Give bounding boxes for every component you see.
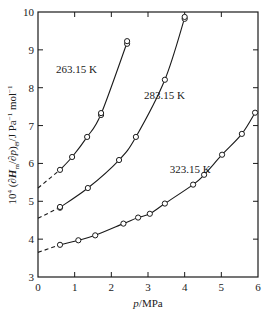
data-point: [162, 77, 167, 82]
y-tick-label: 6: [29, 157, 35, 169]
series-263-15-K: [38, 39, 130, 188]
x-tick-label: 2: [109, 281, 115, 293]
x-tick-label: 0: [35, 281, 41, 293]
chart-svg: 0123456345678910 263.15 K283.15 K323.15 …: [0, 0, 269, 315]
x-tick-label: 3: [145, 281, 151, 293]
data-point: [147, 211, 152, 216]
fit-curve: [60, 113, 255, 245]
data-point: [70, 154, 75, 159]
x-tick-label: 4: [182, 281, 188, 293]
x-axis-label: p/MPa: [132, 297, 162, 309]
data-point: [93, 233, 98, 238]
data-point: [76, 238, 81, 243]
y-tick-label: 3: [29, 271, 35, 283]
extrapolation-line: [38, 245, 60, 253]
y-tick-label: 8: [29, 82, 35, 94]
chart-container: 0123456345678910 263.15 K283.15 K323.15 …: [0, 0, 269, 315]
x-tick-label: 6: [255, 281, 261, 293]
data-point: [125, 39, 130, 44]
y-axis-label: 104 (∂Hm/∂p)Θ/J Pa−1 mol−1: [6, 85, 21, 204]
extrapolation-line: [38, 170, 60, 188]
data-point: [162, 201, 167, 206]
data-series: [38, 14, 258, 252]
data-point: [85, 134, 90, 139]
data-point: [116, 157, 121, 162]
plot-frame: [38, 12, 258, 277]
data-point: [57, 204, 62, 209]
y-tick-label: 5: [29, 195, 35, 207]
series-323-15-K: [38, 110, 258, 252]
data-point: [219, 152, 224, 157]
data-point: [252, 110, 257, 115]
series-label: 263.15 K: [56, 63, 97, 75]
data-point: [57, 167, 62, 172]
series-label: 323.15 K: [170, 163, 211, 175]
data-point: [85, 185, 90, 190]
data-point: [136, 215, 141, 220]
data-point: [98, 110, 103, 115]
y-tick-label: 7: [29, 120, 35, 132]
data-point: [182, 14, 187, 19]
data-point: [191, 182, 196, 187]
data-point: [57, 242, 62, 247]
series-labels: 263.15 K283.15 K323.15 K: [56, 63, 211, 175]
series-283-15-K: [38, 14, 187, 218]
extrapolation-line: [38, 207, 60, 218]
data-point: [121, 221, 126, 226]
x-tick-label: 5: [219, 281, 225, 293]
axes: 0123456345678910: [23, 6, 261, 293]
x-tick-label: 1: [72, 281, 78, 293]
fit-curve: [60, 18, 185, 207]
series-label: 283.15 K: [144, 89, 185, 101]
data-point: [239, 131, 244, 136]
y-tick-label: 4: [29, 233, 35, 245]
y-tick-label: 9: [29, 44, 35, 56]
y-tick-label: 10: [23, 6, 35, 18]
data-point: [133, 134, 138, 139]
